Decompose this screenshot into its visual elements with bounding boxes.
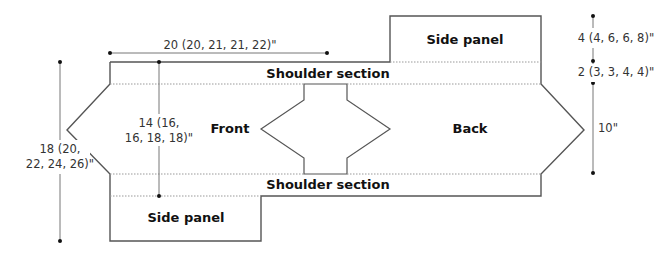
dim-side-panel-depth: 4 (4, 6, 6, 8)" [578, 31, 654, 46]
label-front: Front [211, 121, 250, 136]
neck-opening-outline [261, 84, 390, 174]
label-side-panel-top: Side panel [426, 32, 503, 47]
label-back: Back [452, 121, 487, 136]
dim-total-height-line2: 22, 24, 26)" [26, 157, 94, 172]
dim-front-height: 14 (16, 16, 18, 18)" [125, 116, 193, 146]
label-shoulder-section-top: Shoulder section [266, 66, 389, 81]
schematic-drawing [0, 0, 656, 258]
dim-front-height-line1: 14 (16, [125, 116, 193, 131]
dim-shoulder-depth: 2 (3, 3, 4, 4)" [578, 65, 654, 80]
dim-body-height: 10" [598, 121, 618, 136]
dim-total-height: 18 (20, 22, 24, 26)" [26, 142, 94, 172]
label-shoulder-section-bottom: Shoulder section [266, 177, 389, 192]
label-side-panel-bottom: Side panel [147, 210, 224, 225]
dim-front-height-line2: 16, 18, 18)" [125, 131, 193, 146]
dim-total-height-line1: 18 (20, [26, 142, 94, 157]
dim-width-top: 20 (20, 21, 21, 22)" [163, 38, 276, 53]
